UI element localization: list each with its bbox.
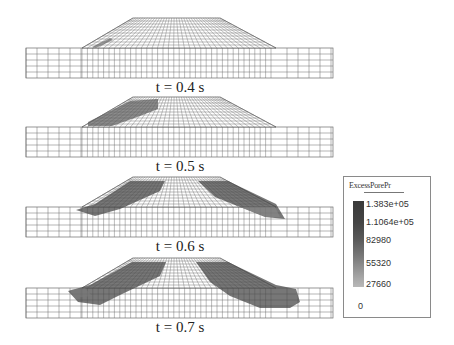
legend-tick-2: 1.1064e+05 bbox=[366, 217, 414, 227]
legend-title: ExcessPorePr bbox=[349, 181, 391, 190]
legend-title-underline bbox=[364, 192, 404, 193]
legend-tick-4: 55320 bbox=[366, 258, 391, 268]
legend-color-bar bbox=[353, 201, 364, 287]
color-legend: ExcessPorePr 1.383e+05 1.1064e+05 82980 … bbox=[343, 176, 431, 318]
time-label: t = 0.7 s bbox=[156, 319, 205, 335]
legend-tick-max: 1.383e+05 bbox=[366, 199, 409, 209]
mesh-panel: t = 0.5 s bbox=[26, 97, 333, 174]
time-label: t = 0.5 s bbox=[156, 158, 205, 174]
legend-tick-5: 27660 bbox=[366, 279, 391, 289]
mesh-panel: t = 0.7 s bbox=[26, 258, 333, 335]
legend-tick-min: 0 bbox=[358, 301, 363, 311]
mesh-panel: t = 0.6 s bbox=[26, 177, 333, 254]
time-label: t = 0.6 s bbox=[156, 238, 205, 254]
time-label: t = 0.4 s bbox=[156, 79, 205, 95]
mesh-panel: t = 0.4 s bbox=[26, 18, 333, 95]
legend-tick-3: 82980 bbox=[366, 235, 391, 245]
